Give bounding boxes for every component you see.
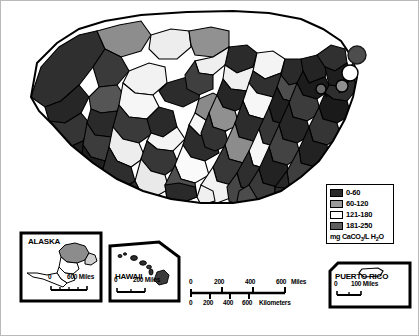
legend-item: 181-250 [330,221,391,231]
miles-tick-0: 0 [189,278,192,285]
legend-label-121-180: 121-180 [346,211,372,219]
hawaii-scale-max: 200 Miles [133,276,160,283]
hawaii-scale-bar [115,283,171,299]
alaska-scale-bar [49,281,99,297]
legend-units-label: mg CaCO3/L H2O [330,232,391,241]
miles-unit: Miles [291,278,306,285]
units-suffix: O [378,232,383,241]
miles-tick-200: 200 [214,278,224,285]
km-tick-0: 0 [189,299,192,306]
legend-swatch-60-120 [330,200,343,208]
inset-alaska: ALASKA 0 600 Miles [19,229,103,305]
legend-swatch-181-250 [330,222,343,230]
miles-tick-600: 600 [276,278,286,285]
km-tick-600: 600 [242,299,252,306]
alaska-title: ALASKA [28,237,60,246]
legend-label-181-250: 181-250 [346,222,372,230]
miles-tick-400: 400 [245,278,255,285]
km-tick-400: 400 [223,299,233,306]
legend-swatch-0-60 [330,189,343,197]
legend-label-0-60: 0-60 [346,189,360,197]
legend-item: 60-120 [330,199,391,209]
legend-label-60-120: 60-120 [346,200,368,208]
map-polygons [21,6,371,211]
alaska-scale-zero: 0 [48,273,51,280]
km-tick-200: 200 [203,299,213,306]
puerto-rico-scale-bar [335,286,387,302]
km-unit: Kilometers [259,299,291,306]
alaska-scale-max: 600 Miles [67,273,94,280]
hawaii-scale-zero: 0 [114,276,117,283]
main-scale-bar: 0 200 400 600 Miles 0 200 400 600 Kilome… [187,278,323,308]
map-legend: 0-60 60-120 121-180 181-250 mg CaCO3/L H… [326,184,394,244]
legend-item: 121-180 [330,210,391,220]
inset-hawaii: HAWAII 0 200 Miles [107,239,183,305]
legend-swatch-121-180 [330,211,343,219]
units-mid: /L H [363,232,375,241]
water-hardness-map-figure: 0-60 60-120 121-180 181-250 mg CaCO3/L H… [0,0,419,336]
units-prefix: mg CaCO [330,232,361,241]
inset-puerto-rico: PUERTO RICO 0 100 Miles [326,259,414,311]
legend-item: 0-60 [330,188,391,198]
